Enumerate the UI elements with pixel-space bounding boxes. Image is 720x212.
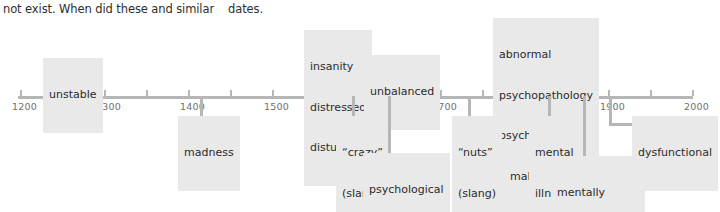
label-box-dysfunctional[interactable]: dysfunctional (632, 116, 718, 191)
axis-tick-1750 (482, 90, 484, 96)
timeline-infographic: not exist. When did these and similar da… (0, 0, 720, 212)
label-line: (slang) (458, 187, 496, 201)
body-text-column-a: not exist. When did these and similar (3, 2, 214, 16)
label-line: unbalanced (370, 85, 434, 99)
axis-tick-label-2000: 2000 (684, 101, 709, 112)
connector-elbow-dysfunctional (609, 123, 634, 126)
label-line: distressed (310, 101, 366, 115)
axis-tick-1300 (104, 90, 106, 96)
axis-tick-label-1500: 1500 (264, 101, 289, 112)
label-line: psychopathology (499, 89, 593, 103)
connector-stem-mentally-handicapped (583, 96, 586, 156)
connector-stem-madness (200, 96, 203, 116)
connector-stem-nuts (468, 96, 471, 116)
connector-stem-crazy (352, 96, 355, 116)
axis-tick-1500 (272, 90, 274, 96)
connector-stem-dysfunctional (609, 96, 612, 126)
axis-tick-label-1200: 1200 (12, 101, 37, 112)
label-line: dysfunctional (638, 146, 712, 160)
axis-tick-1400 (188, 90, 190, 96)
label-line: madness (184, 146, 234, 160)
label-box-nuts[interactable]: “nuts” (slang) (452, 116, 502, 212)
label-line: “nuts” (458, 146, 496, 160)
axis-tick-1700 (440, 90, 442, 96)
label-line: abnormal (499, 48, 593, 62)
axis-tick-1450 (230, 90, 232, 96)
axis-tick-label-1900: 1900 (600, 101, 625, 112)
axis-tick-1200 (20, 90, 22, 96)
connector-stem-psychological (388, 96, 391, 153)
axis-tick-1950 (650, 90, 652, 96)
label-box-unstable[interactable]: unstable (43, 58, 103, 133)
label-box-psychological[interactable]: psychological (363, 153, 450, 212)
axis-tick-1350 (146, 90, 148, 96)
label-line: psychological (369, 183, 444, 197)
body-text-column-b: dates. (228, 2, 263, 16)
label-line: unstable (49, 88, 97, 102)
label-line: mentally (557, 186, 639, 200)
label-box-madness[interactable]: madness (178, 116, 240, 191)
label-line: insanity (310, 60, 366, 74)
axis-tick-2000 (692, 90, 694, 96)
connector-stem-mental-illness (548, 96, 551, 116)
